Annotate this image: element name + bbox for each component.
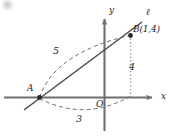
origin-label: O bbox=[96, 100, 103, 109]
x-axis-label: x bbox=[161, 92, 166, 101]
length-label-5: 5 bbox=[53, 46, 59, 56]
point-a-marker bbox=[37, 95, 42, 100]
length-label-3: 3 bbox=[76, 114, 82, 124]
line-l-label: ℓ bbox=[146, 8, 150, 17]
figure-canvas bbox=[0, 0, 171, 138]
length-label-4: 4 bbox=[129, 62, 135, 72]
geometry-figure: y x O ℓ A B(1,4) 5 4 3 bbox=[0, 0, 171, 138]
y-axis-label: y bbox=[109, 6, 114, 15]
point-a-label: A bbox=[27, 84, 34, 93]
point-b-label: B(1,4) bbox=[133, 25, 160, 34]
